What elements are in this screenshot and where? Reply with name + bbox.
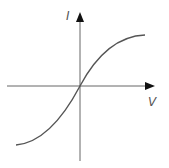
iv-curve-diagram [0, 0, 169, 168]
i-axis-label: I [66, 10, 70, 22]
v-axis-arrow-icon [145, 82, 155, 90]
i-axis-arrow-icon [76, 12, 84, 22]
v-axis-label: V [148, 96, 156, 108]
